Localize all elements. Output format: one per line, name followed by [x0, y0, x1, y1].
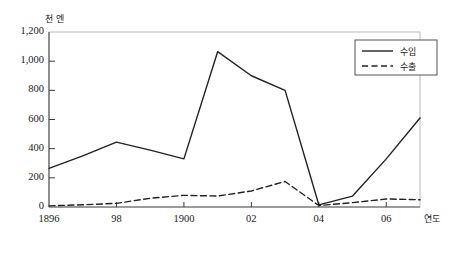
- x-tick-label: 1896: [39, 213, 60, 224]
- chart-container: 천 엔 연도 02004006008001,0001,200 189698190…: [0, 0, 458, 261]
- x-tick-label: 06: [381, 213, 392, 224]
- x-tick-label: 98: [111, 213, 122, 224]
- x-tick-label: 04: [314, 213, 325, 224]
- x-tick-label: 1900: [173, 213, 194, 224]
- x-axis-tick-labels: 1896981900020406: [0, 0, 458, 261]
- x-tick-label: 02: [246, 213, 257, 224]
